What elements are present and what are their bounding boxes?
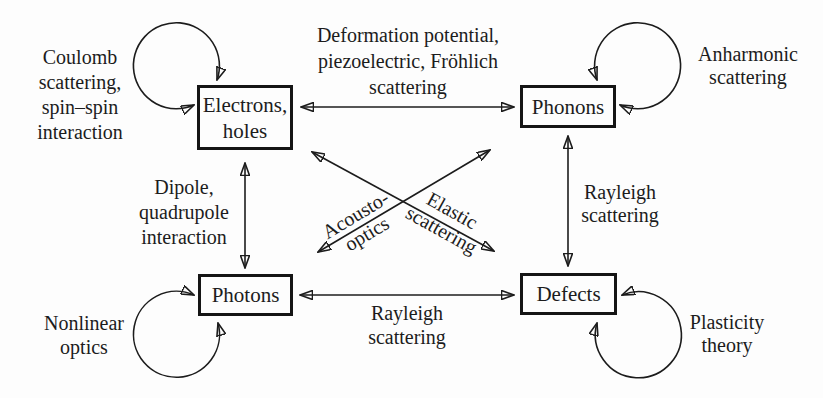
label-line: Nonlinear xyxy=(44,311,124,335)
label-line: interaction xyxy=(37,120,123,145)
node-electrons-label-line2: holes xyxy=(223,118,267,144)
label-line: Dipole, xyxy=(139,175,229,200)
label-dipole-quadrupole: Dipole, quadrupole interaction xyxy=(139,175,229,250)
label-line: optics xyxy=(44,335,124,359)
label-line: scattering xyxy=(368,325,446,349)
label-line: quadrupole xyxy=(139,200,229,225)
label-line: interaction xyxy=(139,225,229,250)
label-nonlinear-optics: Nonlinear optics xyxy=(44,311,124,359)
label-line: piezoelectric, Fröhlich xyxy=(317,48,499,74)
node-phonons: Phonons xyxy=(520,85,616,128)
label-plasticity-theory: Plasticity theory xyxy=(690,311,764,357)
label-line: scattering xyxy=(698,66,798,89)
label-line: theory xyxy=(690,334,764,357)
label-line: scattering xyxy=(317,74,499,100)
label-line: Anharmonic xyxy=(698,43,798,66)
label-coulomb-scattering: Coulomb scattering, spin–spin interactio… xyxy=(37,45,123,145)
node-defects-label: Defects xyxy=(536,281,600,307)
node-electrons-label-line1: Electrons, xyxy=(203,92,288,118)
label-line: spin–spin xyxy=(37,95,123,120)
node-phonons-label: Phonons xyxy=(532,94,604,120)
node-defects: Defects xyxy=(520,273,617,315)
node-photons: Photons xyxy=(198,274,293,316)
label-line: Coulomb xyxy=(37,45,123,70)
node-photons-label: Photons xyxy=(212,282,280,308)
label-line: Rayleigh xyxy=(581,181,659,204)
label-line: scattering, xyxy=(37,70,123,95)
label-deformation-potential: Deformation potential, piezoelectric, Fr… xyxy=(317,22,499,100)
label-line: Plasticity xyxy=(690,311,764,334)
label-anharmonic-scattering: Anharmonic scattering xyxy=(698,43,798,89)
label-line: scattering xyxy=(581,204,659,227)
label-rayleigh-scattering-photons-defects: Rayleigh scattering xyxy=(368,301,446,349)
label-line: Rayleigh xyxy=(368,301,446,325)
node-electrons-holes: Electrons, holes xyxy=(197,85,293,150)
label-rayleigh-scattering-phonons-defects: Rayleigh scattering xyxy=(581,181,659,227)
interaction-diagram: Electrons, holes Phonons Photons Defects… xyxy=(0,0,823,398)
label-line: Deformation potential, xyxy=(317,22,499,48)
